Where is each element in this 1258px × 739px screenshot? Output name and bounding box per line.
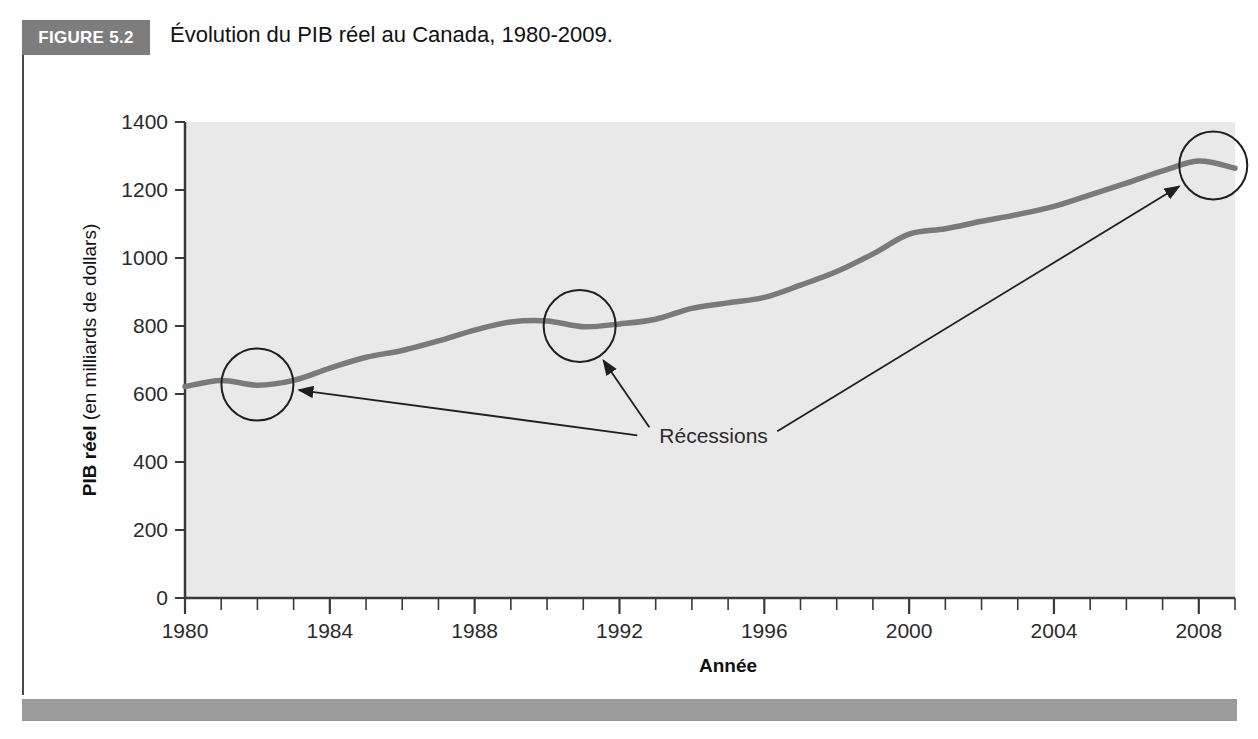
x-tick-label: 2000	[886, 619, 933, 642]
x-tick-label: 1996	[741, 619, 788, 642]
y-tick-label: 200	[133, 518, 168, 541]
y-tick-label: 800	[133, 314, 168, 337]
y-tick-label: 600	[133, 382, 168, 405]
x-tick-label: 2008	[1175, 619, 1222, 642]
plot-background	[185, 122, 1235, 598]
x-tick-label: 1984	[306, 619, 353, 642]
y-axis-title-rest: (en milliards de dollars)	[79, 224, 100, 426]
x-tick-label: 1988	[451, 619, 498, 642]
y-tick-label: 1200	[121, 178, 168, 201]
x-tick-label: 2004	[1031, 619, 1078, 642]
x-tick-label: 1980	[162, 619, 209, 642]
figure-root: FIGURE 5.2 Évolution du PIB réel au Cana…	[0, 0, 1258, 739]
chart-area: 0200400600800100012001400 19801984198819…	[0, 0, 1258, 739]
y-tick-label: 1400	[121, 110, 168, 133]
y-tick-label: 400	[133, 450, 168, 473]
gdp-line-chart: 0200400600800100012001400 19801984198819…	[0, 0, 1258, 739]
x-tick-label: 1992	[596, 619, 643, 642]
y-axis-title-bold: PIB réel	[79, 425, 100, 496]
y-tick-label: 1000	[121, 246, 168, 269]
x-axis: 19801984198819921996200020042008	[162, 598, 1235, 642]
x-axis-title: Année	[699, 655, 757, 676]
y-tick-label: 0	[156, 586, 168, 609]
y-axis: 0200400600800100012001400	[121, 110, 185, 609]
y-axis-title: PIB réel (en milliards de dollars)	[79, 224, 100, 496]
recessions-label: Récessions	[659, 424, 768, 447]
